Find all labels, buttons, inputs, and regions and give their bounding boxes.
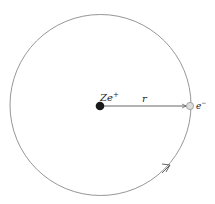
orbit-direction-arrow-icon [162,164,170,173]
electron-label: e− [196,99,206,111]
bohr-orbit-diagram: Ze+ r e− [0,0,215,204]
electron-dot [186,102,193,109]
nucleus-label: Ze+ [99,91,119,103]
radius-label: r [142,93,148,104]
